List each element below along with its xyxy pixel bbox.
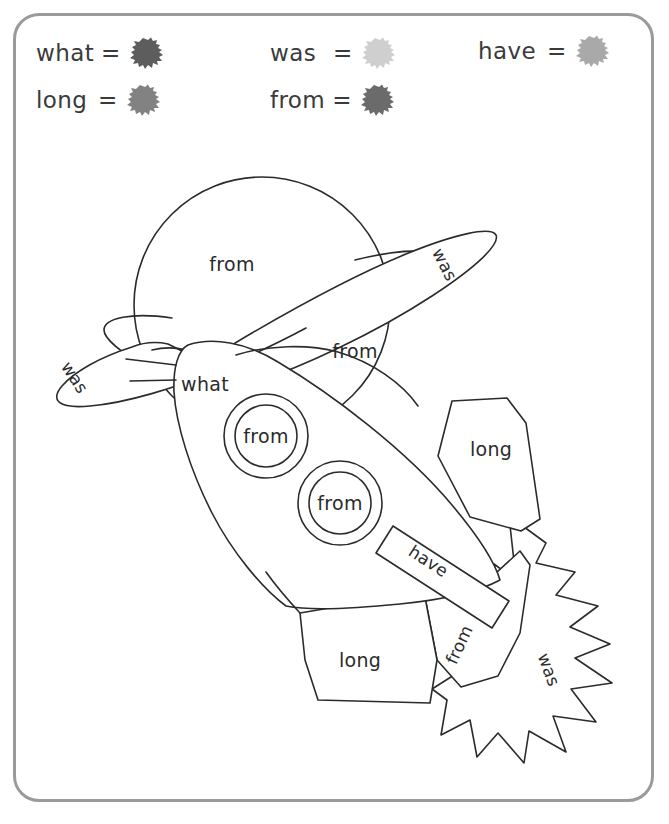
legend-item-what: what =	[36, 36, 165, 70]
legend-swatch-was	[361, 36, 397, 70]
legend-word-have: have	[478, 38, 540, 64]
legend-swatch-what	[129, 36, 165, 70]
legend-swatch-long	[126, 83, 162, 117]
legend-item-long: long =	[36, 83, 162, 117]
legend-equals-have: =	[547, 38, 566, 64]
legend-equals-long: =	[98, 87, 117, 113]
legend-equals-was: =	[333, 40, 352, 66]
legend-item-have: have =	[478, 34, 611, 68]
legend-word-from: from	[270, 87, 325, 113]
legend-word-was: was	[270, 40, 326, 66]
worksheet-page: what = was = have =	[0, 0, 669, 824]
legend-word-what: what	[36, 40, 94, 66]
legend-equals-what: =	[101, 40, 120, 66]
legend-word-long: long	[36, 87, 91, 113]
legend-item-from: from =	[270, 83, 396, 117]
legend-equals-from: =	[332, 87, 351, 113]
legend-item-was: was =	[270, 36, 397, 70]
legend-key: what = was = have =	[0, 0, 669, 135]
legend-swatch-from	[360, 83, 396, 117]
legend-swatch-have	[575, 34, 611, 68]
